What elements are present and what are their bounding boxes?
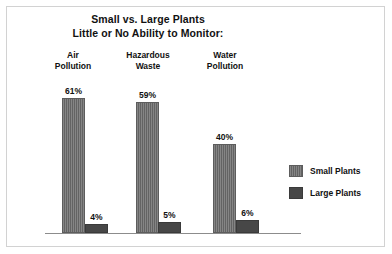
bar-large-plants-air-pollution [85,224,108,233]
bar-value-large-plants-air-pollution: 4% [79,212,114,222]
legend-item-large-plants: Large Plants [289,182,361,204]
bar-large-plants-water-pollution [236,220,259,233]
legend-label-small-plants: Small Plants [310,166,361,176]
bar-large-plants-hazardous-waste [158,222,181,233]
bar-value-small-plants-hazardous-waste: 59% [130,90,165,100]
legend-label-large-plants: Large Plants [310,188,361,198]
legend-item-small-plants: Small Plants [289,160,361,182]
plot-area: 61% 4% 59% 5% 40% 6% [0,0,392,254]
small-plants-swatch-icon [289,165,303,177]
large-plants-swatch-icon [289,187,303,199]
bar-value-small-plants-air-pollution: 61% [56,86,91,96]
bar-value-small-plants-water-pollution: 40% [207,132,242,142]
bar-value-large-plants-hazardous-waste: 5% [152,210,187,220]
chart-legend: Small Plants Large Plants [289,160,361,204]
bar-small-plants-water-pollution [213,144,236,233]
bar-value-large-plants-water-pollution: 6% [230,208,265,218]
x-axis-baseline [45,233,301,234]
bar-chart-figure: Small vs. Large Plants Little or No Abil… [0,0,392,254]
